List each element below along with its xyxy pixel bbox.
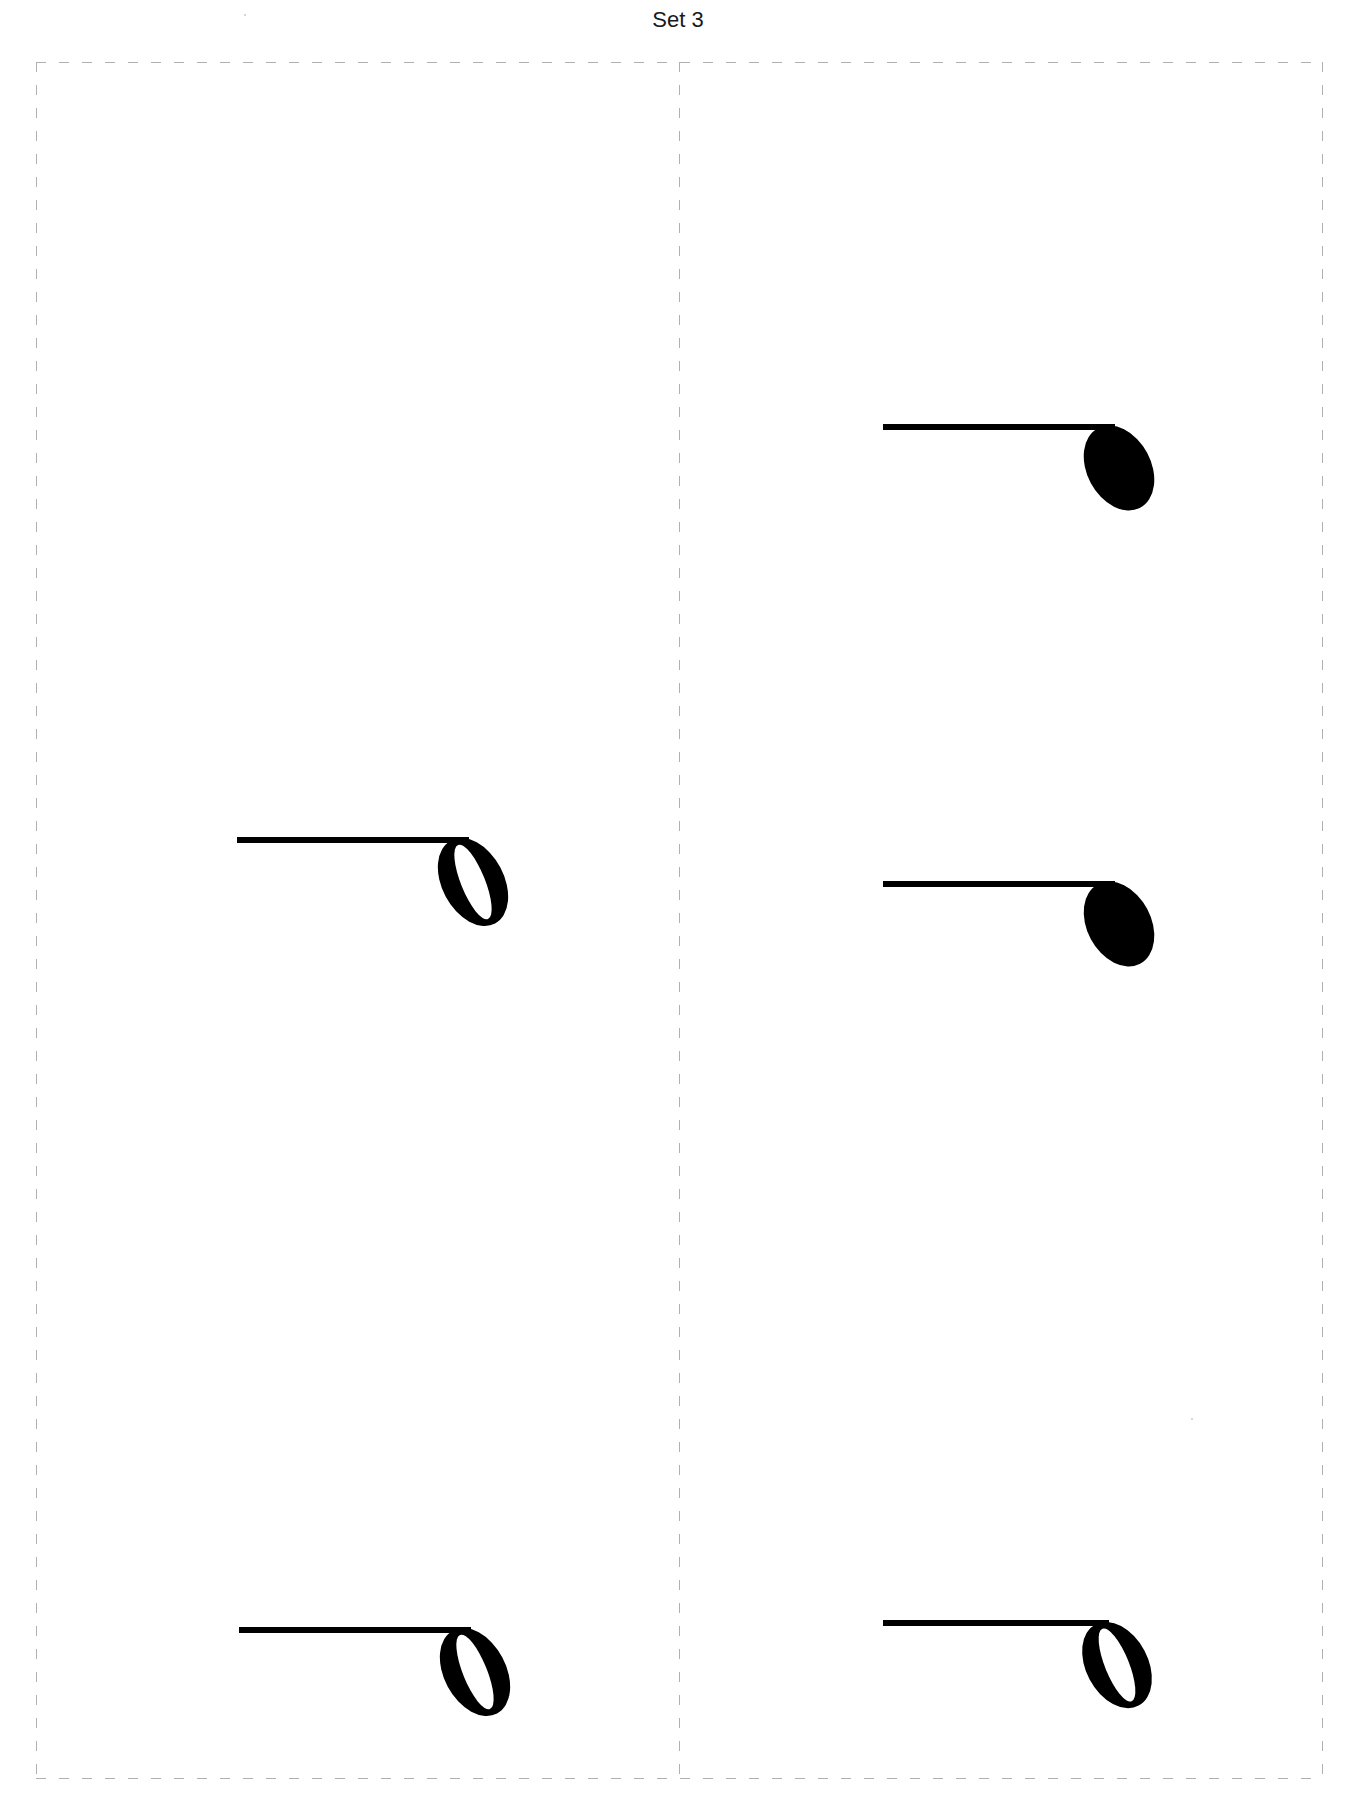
half-note-icon bbox=[237, 828, 527, 938]
scan-speck bbox=[244, 14, 246, 16]
half-note-icon bbox=[883, 1611, 1173, 1721]
half-note-icon bbox=[239, 1618, 529, 1728]
quarter-note-icon bbox=[883, 872, 1173, 982]
scan-speck bbox=[1191, 1418, 1193, 1420]
quarter-note-icon bbox=[883, 415, 1173, 525]
cut-line-right bbox=[1322, 62, 1323, 1778]
cut-line-bottom bbox=[36, 1778, 1322, 1779]
page-title: Set 3 bbox=[0, 6, 1348, 34]
